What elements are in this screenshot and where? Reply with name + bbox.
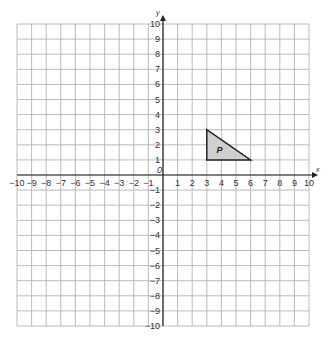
x-tick-label: 1: [175, 178, 180, 188]
x-tick-label: 5: [233, 178, 238, 188]
shape-label: P: [216, 145, 223, 155]
axes: [17, 15, 318, 326]
y-tick-label: 6: [155, 79, 160, 89]
x-tick-label: 2: [190, 178, 195, 188]
x-tick-label: 4: [219, 178, 224, 188]
y-tick-label: −2: [150, 200, 160, 210]
x-tick-label: 6: [248, 178, 253, 188]
x-tick-label: −10: [9, 178, 24, 188]
x-tick-label: −4: [99, 178, 109, 188]
y-tick-label: −1: [150, 185, 160, 195]
x-tick-label: 3: [204, 178, 209, 188]
y-tick-label: 2: [155, 140, 160, 150]
x-tick-label: −7: [56, 178, 66, 188]
y-tick-label: 8: [155, 49, 160, 59]
y-tick-label: −7: [150, 276, 160, 286]
x-tick-label: 10: [304, 178, 314, 188]
y-axis-arrow-icon: [160, 15, 166, 21]
y-tick-label: 10: [150, 19, 160, 29]
y-tick-label: −9: [150, 306, 160, 316]
y-tick-label: −4: [150, 230, 160, 240]
origin-label: 0: [157, 165, 162, 175]
y-axis-label: y: [155, 9, 160, 17]
x-tick-label: 8: [277, 178, 282, 188]
x-tick-label: −5: [85, 178, 95, 188]
y-tick-label: 1: [155, 155, 160, 165]
y-tick-label: 3: [155, 125, 160, 135]
x-tick-label: −9: [26, 178, 36, 188]
x-axis-label: x: [315, 166, 320, 173]
x-tick-label: 9: [292, 178, 297, 188]
y-tick-label: −5: [150, 246, 160, 256]
x-tick-label: −3: [114, 178, 124, 188]
x-tick-label: −6: [70, 178, 80, 188]
y-tick-label: −8: [150, 291, 160, 301]
y-tick-label: 7: [155, 64, 160, 74]
y-tick-label: 9: [155, 34, 160, 44]
x-tick-label: −2: [129, 178, 139, 188]
y-tick-label: 4: [155, 110, 160, 120]
x-tick-label: −8: [41, 178, 51, 188]
coordinate-grid: P−10−9−8−7−6−5−4−3−2−112345678910−10−9−8…: [0, 0, 329, 341]
x-tick-label: 7: [263, 178, 268, 188]
y-tick-label: −10: [145, 321, 160, 331]
y-tick-label: 5: [155, 95, 160, 105]
y-tick-label: −6: [150, 261, 160, 271]
y-tick-label: −3: [150, 215, 160, 225]
